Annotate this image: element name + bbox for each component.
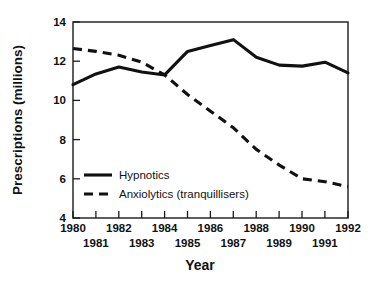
y-tick-label-12: 12 [53, 55, 66, 67]
x-tick-labels-bottom-row: 1981 1983 1985 1987 1989 1991 [83, 237, 338, 249]
x-tick-label-1981: 1981 [83, 237, 109, 249]
x-tick-label-1980: 1980 [60, 222, 86, 234]
x-tick-label-1992: 1992 [335, 222, 361, 234]
x-tick-label-1983: 1983 [129, 237, 155, 249]
x-axis-ticks [73, 211, 348, 218]
y-axis-title: Prescriptions (millions) [10, 45, 25, 195]
chart-figure: Prescriptions (millions) 14 12 10 8 6 4 [0, 0, 376, 281]
legend-label-hypnotics: Hypnotics [119, 169, 170, 181]
y-tick-label-14: 14 [53, 16, 66, 28]
y-tick-label-8: 8 [60, 134, 67, 146]
y-tick-label-6: 6 [60, 173, 66, 185]
x-tick-label-1991: 1991 [312, 237, 338, 249]
x-tick-label-1990: 1990 [289, 222, 315, 234]
series-line-hypnotics [73, 40, 348, 85]
x-tick-label-1988: 1988 [243, 222, 269, 234]
legend-label-anxiolytics: Anxiolytics (tranquillisers) [119, 188, 249, 200]
x-tick-labels-top-row: 1980 1982 1984 1986 1988 1990 1992 [60, 222, 361, 234]
y-tick-label-10: 10 [53, 94, 66, 106]
x-tick-label-1982: 1982 [106, 222, 132, 234]
legend: Hypnotics Anxiolytics (tranquillisers) [84, 169, 249, 200]
x-tick-label-1987: 1987 [221, 237, 247, 249]
y-axis-ticks [73, 22, 80, 218]
x-tick-label-1984: 1984 [152, 222, 178, 234]
line-chart: Prescriptions (millions) 14 12 10 8 6 4 [0, 0, 376, 281]
x-axis-title: Year [185, 257, 215, 273]
x-tick-label-1989: 1989 [266, 237, 292, 249]
y-axis-title-group: Prescriptions (millions) [10, 45, 25, 195]
x-tick-label-1985: 1985 [175, 237, 201, 249]
x-tick-label-1986: 1986 [198, 222, 224, 234]
y-tick-labels: 14 12 10 8 6 4 [53, 16, 66, 224]
